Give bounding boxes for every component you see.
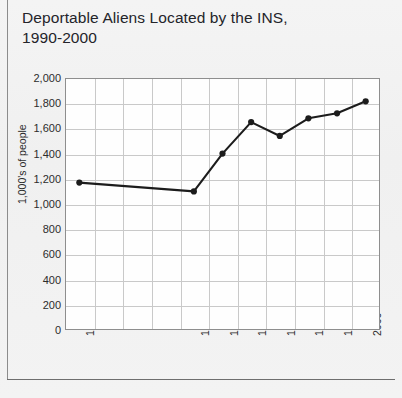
data-series-layer bbox=[65, 78, 380, 330]
data-point-1995 bbox=[219, 151, 225, 157]
y-tick-label-1800: 1,800 bbox=[1, 97, 61, 109]
y-tick-label-800: 800 bbox=[1, 223, 61, 235]
chart-page: Deportable Aliens Located by the INS, 19… bbox=[0, 0, 402, 398]
data-point-1996 bbox=[248, 119, 254, 125]
data-point-1999 bbox=[334, 110, 340, 116]
y-tick-label-0: 0 bbox=[1, 324, 61, 336]
y-tick-label-2000: 2,000 bbox=[1, 72, 61, 84]
line-chart: 1,000's of people 2,0001,8001,6001,4001,… bbox=[0, 0, 402, 398]
y-axis-title: 1,000's of people bbox=[16, 124, 28, 204]
y-tick-label-1400: 1,400 bbox=[1, 148, 61, 160]
series-line bbox=[79, 101, 365, 191]
y-tick-label-1000: 1,000 bbox=[1, 198, 61, 210]
y-tick-label-1600: 1,600 bbox=[1, 122, 61, 134]
data-point-2000 bbox=[363, 98, 369, 104]
data-point-1994 bbox=[191, 188, 197, 194]
y-tick-label-600: 600 bbox=[1, 248, 61, 260]
y-tick-label-200: 200 bbox=[1, 299, 61, 311]
y-tick-label-400: 400 bbox=[1, 274, 61, 286]
series-markers bbox=[76, 98, 369, 194]
data-point-1997 bbox=[277, 133, 283, 139]
data-point-1990 bbox=[76, 179, 82, 185]
data-point-1998 bbox=[305, 115, 311, 121]
y-tick-label-1200: 1,200 bbox=[1, 173, 61, 185]
